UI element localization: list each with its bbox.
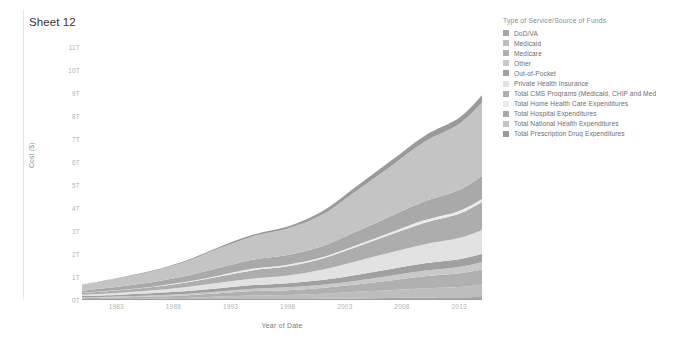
- legend-color-swatch: [503, 70, 509, 76]
- y-axis-tick-label: 5T: [72, 182, 80, 189]
- x-axis-tick-label: 1983: [109, 303, 124, 310]
- legend-item[interactable]: Total Home Health Care Expenditures: [503, 99, 679, 109]
- legend-color-swatch: [503, 101, 509, 107]
- legend-color-swatch: [503, 91, 509, 97]
- legend-item-label: Total CMS Programs (Medicaid, CHIP and M…: [514, 90, 656, 97]
- x-axis-tick-label: 2003: [337, 303, 352, 310]
- legend-color-swatch: [503, 30, 509, 36]
- y-axis-tick-label: 10T: [68, 67, 80, 74]
- legend-color-swatch: [503, 131, 509, 137]
- legend-item-label: Private Health Insurance: [514, 80, 589, 87]
- y-axis-tick-label: 2T: [72, 251, 80, 258]
- axis-divider: [23, 10, 24, 300]
- y-axis-tick-label: 7T: [72, 136, 80, 143]
- legend-item[interactable]: Total National Health Expenditures: [503, 119, 679, 129]
- legend-item[interactable]: Total Hospital Expenditures: [503, 109, 679, 119]
- legend-item[interactable]: DoD/VA: [503, 28, 679, 38]
- legend: Type of Service/Source of Funds DoD/VAMe…: [503, 17, 679, 139]
- legend-item-label: DoD/VA: [514, 30, 538, 37]
- legend-item[interactable]: Total CMS Programs (Medicaid, CHIP and M…: [503, 89, 679, 99]
- y-axis-tick-label: 6T: [72, 159, 80, 166]
- x-axis-title: Year of Date: [261, 322, 302, 329]
- page-title: Sheet 12: [29, 16, 76, 28]
- y-axis-tick-label: 8T: [72, 113, 80, 120]
- legend-item-label: Total National Health Expenditures: [514, 120, 619, 127]
- legend-item-label: Medicare: [514, 50, 542, 57]
- y-axis-title: Cost ($): [28, 142, 35, 168]
- x-axis[interactable]: 1983198819931998200320082013: [82, 300, 482, 314]
- legend-item-label: Total Prescription Drug Expenditures: [514, 130, 625, 137]
- legend-item[interactable]: Other: [503, 58, 679, 68]
- legend-item-label: Other: [514, 60, 531, 67]
- y-axis-tick-label: 1T: [72, 274, 80, 281]
- legend-item[interactable]: Medicaid: [503, 38, 679, 48]
- x-axis-tick-label: 2013: [452, 303, 467, 310]
- x-axis-tick-label: 2008: [394, 303, 409, 310]
- y-axis-tick-label: 4T: [72, 205, 80, 212]
- worksheet-panel: Sheet 12 0T1T2T3T4T5T6T7T8T9T10T11T Cost…: [0, 0, 492, 351]
- legend-color-swatch: [503, 81, 509, 87]
- area-series-group: [82, 95, 482, 300]
- y-axis-tick-label: 11T: [69, 44, 80, 51]
- legend-item-label: Out-of-Pocket: [514, 70, 556, 77]
- legend-title: Type of Service/Source of Funds: [503, 17, 679, 24]
- x-axis-tick-label: 1988: [166, 303, 181, 310]
- y-axis[interactable]: 0T1T2T3T4T5T6T7T8T9T10T11T: [44, 36, 80, 300]
- legend-item-label: Total Home Health Care Expenditures: [514, 100, 628, 107]
- y-axis-tick-label: 3T: [72, 228, 80, 235]
- plot-area[interactable]: [82, 36, 482, 300]
- legend-item-label: Medicaid: [514, 40, 541, 47]
- legend-item[interactable]: Total Prescription Drug Expenditures: [503, 129, 679, 139]
- legend-color-swatch: [503, 50, 509, 56]
- legend-color-swatch: [503, 111, 509, 117]
- y-axis-tick-label: 9T: [72, 90, 80, 97]
- legend-color-swatch: [503, 60, 509, 66]
- x-axis-tick-label: 1998: [280, 303, 295, 310]
- legend-color-swatch: [503, 121, 509, 127]
- legend-item[interactable]: Out-of-Pocket: [503, 68, 679, 78]
- x-axis-tick-label: 1993: [223, 303, 238, 310]
- tableau-worksheet-view: Sheet 12 0T1T2T3T4T5T6T7T8T9T10T11T Cost…: [0, 0, 683, 351]
- stacked-area-chart: [82, 36, 482, 300]
- legend-item[interactable]: Medicare: [503, 48, 679, 58]
- legend-item-label: Total Hospital Expenditures: [514, 110, 597, 117]
- y-axis-tick-label: 0T: [72, 297, 80, 304]
- legend-item[interactable]: Private Health Insurance: [503, 78, 679, 88]
- legend-color-swatch: [503, 40, 509, 46]
- legend-list: DoD/VAMedicaidMedicareOtherOut-of-Pocket…: [503, 28, 679, 139]
